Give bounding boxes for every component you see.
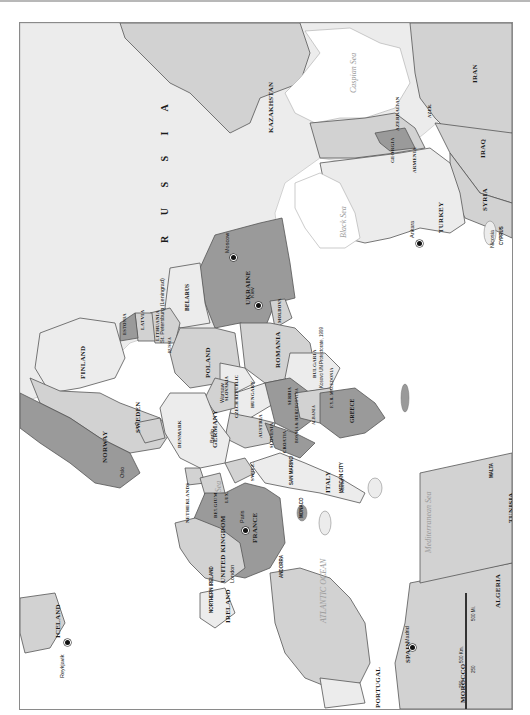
label-slovakia: SLOVAKIA [225, 376, 230, 401]
scale-km-500: 500 Km. [460, 646, 465, 663]
label-armenia: ARMENIA [412, 147, 417, 173]
label-iraq: IRAQ [480, 139, 487, 158]
label-latvia: LATVIA [140, 310, 145, 330]
label-austria: AUSTRIA [258, 414, 263, 438]
label-monaco: MONACO [300, 498, 305, 519]
label-belarus: BELARUS [185, 284, 191, 311]
label-norway: NORWAY [102, 431, 109, 463]
capital-marker-reykjavik [65, 640, 70, 645]
label-malta: MALTA [490, 463, 495, 478]
label-finland: FINLAND [80, 346, 87, 379]
city-ankara: Ankara [410, 221, 416, 238]
label-kazakhstan: KAZAKHSTAN [268, 82, 275, 133]
label-portugal: PORTUGAL [375, 667, 382, 708]
city-reykjavik: Reykjavik [60, 654, 66, 678]
label-andorra: ANDORRA [280, 555, 285, 578]
city-berlin: Berlin [210, 429, 216, 443]
capital-marker-ankara [417, 241, 422, 246]
label-azer: AZER. [428, 103, 433, 118]
label-san-marino: SAN MARINO [290, 456, 295, 485]
label-estonia: ESTONIA [123, 313, 128, 335]
city-nicosia: Nicosia [490, 230, 496, 248]
label-kosovo: Kosovo UN Protectorate, 1999 [320, 327, 325, 388]
city-moscow: Moscow [225, 233, 231, 253]
label-black-sea: Black Sea [340, 206, 348, 238]
label-poland: POLAND [205, 347, 212, 378]
city-london: London [230, 565, 236, 583]
label-iran: IRAN [472, 64, 479, 83]
label-albania: ALBANIA [312, 405, 316, 425]
label-russia-kaliningrad: RUSSIA [168, 337, 172, 353]
capital-marker-moscow [231, 255, 236, 260]
map-shapes [20, 23, 512, 709]
label-north-sea: North Sea [215, 481, 223, 513]
label-northern-ireland: NORTHERN IRELAND [210, 566, 215, 613]
city-warsaw: Warsaw [220, 383, 226, 403]
label-atlantic-ocean: ATLANTIC OCEAN [320, 559, 328, 623]
label-bosnia: BOSNIA & HERZEGOVINA [295, 388, 299, 443]
label-romania: ROMANIA [275, 332, 282, 368]
scale-mi-250: 250 [472, 665, 477, 673]
label-syria: SYRIA [482, 188, 489, 211]
label-hungary: HUNGARY [250, 381, 255, 408]
label-russia: R U S S I A [160, 95, 170, 243]
label-netherlands: NETHERLANDS [185, 483, 190, 523]
label-iceland: ICELAND [55, 604, 62, 638]
city-rome: Rome [340, 478, 346, 493]
capital-marker-kiev [256, 303, 261, 308]
scale-km-250: 250 [460, 680, 465, 688]
label-czech-republic: CZECH REPUBLIC [235, 375, 240, 418]
label-france: FRANCE [252, 513, 259, 543]
label-switzerland: SWITZ. [250, 462, 255, 481]
label-caspian-sea: Caspian Sea [350, 53, 358, 93]
label-algeria: ALGERIA [495, 574, 502, 608]
label-cyprus: CYPRUS [500, 226, 505, 245]
label-slovenia: SLOVENIA [270, 423, 275, 448]
label-moldova: MOLDOVA [278, 298, 283, 323]
label-mediterranean-sea: Mediterranean Sea [425, 491, 433, 553]
label-sweden: SWEDEN [135, 401, 142, 433]
scale-mi-500: 500 Mi. [472, 606, 477, 621]
city-st-petersburg: St. Petersburg (Leningrad) [160, 278, 166, 343]
city-paris: Paris [240, 510, 246, 523]
top-edge [0, 0, 530, 2]
city-kiev: Kiev [250, 287, 256, 298]
label-luxembourg: LUX. [225, 492, 230, 503]
label-tunisia: TUNISIA [508, 492, 513, 523]
label-turkey: TURKEY [438, 202, 445, 233]
capital-marker-madrid [410, 645, 415, 650]
capital-marker-paris [243, 528, 248, 533]
label-macedonia: F.Y.R. MACEDONIA [330, 368, 334, 408]
label-georgia: GEORGIA [390, 137, 395, 163]
city-madrid: Madrid [405, 626, 411, 643]
label-italy: ITALY [325, 471, 332, 493]
label-serbia: SERBIA [288, 387, 293, 405]
scale-bar [465, 593, 467, 710]
label-united-kingdom: UNITED KINGDOM [220, 515, 227, 583]
label-croatia: CROATIA [283, 431, 288, 453]
label-bulgaria: BULGARIA [312, 349, 317, 378]
label-ireland: IRELAND [225, 589, 232, 623]
europe-map: R U S S I A KAZAKHSTAN IRAN IRAQ SYRIA T… [19, 22, 513, 710]
label-denmark: DENMARK [177, 420, 182, 448]
city-oslo: Oslo [120, 467, 126, 478]
label-azerbaijan: AZERBAIJAN [395, 96, 400, 131]
label-greece: GREECE [350, 399, 356, 423]
